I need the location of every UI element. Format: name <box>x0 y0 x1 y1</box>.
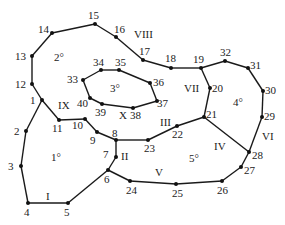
edge-39-40 <box>90 98 102 104</box>
edge-2-3 <box>21 131 26 166</box>
vertex-label-2: 2 <box>14 125 20 137</box>
face-label-4: 4° <box>233 96 243 108</box>
vertex-label-37: 37 <box>157 97 169 109</box>
edge-33-34 <box>83 70 101 80</box>
vertex-label-13: 13 <box>15 50 27 62</box>
roman-label-VII: VII <box>184 82 200 94</box>
vertex-label-23: 23 <box>144 142 156 154</box>
vertex-17 <box>141 58 145 62</box>
roman-label-IV: IV <box>214 140 226 152</box>
vertex-label-33: 33 <box>67 73 79 85</box>
edge-5-6 <box>68 170 108 203</box>
vertex-label-21: 21 <box>206 108 217 120</box>
vertex-label-4: 4 <box>24 206 30 218</box>
edge-9-10 <box>85 119 97 132</box>
vertex-34 <box>99 68 103 72</box>
vertex-label-15: 15 <box>88 9 100 21</box>
vertex-26 <box>220 179 224 183</box>
edge-31-30 <box>248 68 263 91</box>
vertex-label-28: 28 <box>252 149 264 161</box>
edge-region-labels-group: IIIIIIIVVVIVIIVIIIIXX <box>46 28 274 202</box>
vertex-labels-group: 1234567891011121314151617181920212223242… <box>8 9 277 218</box>
vertex-label-35: 35 <box>115 56 127 68</box>
edge-21-22 <box>177 117 204 126</box>
roman-label-VIII: VIII <box>134 28 153 40</box>
edge-32-31 <box>225 61 248 68</box>
vertex-label-20: 20 <box>212 82 224 94</box>
vertex-label-7: 7 <box>103 148 109 160</box>
vertex-label-14: 14 <box>38 23 50 35</box>
edge-38-39 <box>102 104 133 108</box>
vertex-1 <box>40 98 44 102</box>
vertex-6 <box>106 168 110 172</box>
vertex-label-16: 16 <box>114 23 126 35</box>
edge-6-7 <box>108 157 116 170</box>
vertex-label-10: 10 <box>72 119 84 131</box>
vertex-36 <box>148 81 152 85</box>
vertex-label-34: 34 <box>93 56 105 68</box>
edge-25-26 <box>176 181 222 184</box>
vertex-28 <box>247 150 251 154</box>
roman-label-III: III <box>160 116 171 128</box>
vertex-40 <box>88 96 92 100</box>
face-label-3: 3° <box>110 82 120 94</box>
vertex-label-3: 3 <box>8 160 14 172</box>
roman-label-V: V <box>155 166 163 178</box>
vertex-label-31: 31 <box>250 59 261 71</box>
vertex-label-32: 32 <box>220 46 231 58</box>
vertex-label-17: 17 <box>139 45 151 57</box>
vertex-label-8: 8 <box>112 127 118 139</box>
vertex-label-11: 11 <box>52 122 63 134</box>
vertex-19 <box>199 66 203 70</box>
roman-label-X: X <box>119 109 127 121</box>
vertex-label-22: 22 <box>172 128 183 140</box>
roman-label-II: II <box>121 150 129 162</box>
vertex-label-40: 40 <box>77 97 89 109</box>
edge-28-21 <box>204 117 249 152</box>
vertex-27 <box>239 165 243 169</box>
vertex-label-30: 30 <box>265 84 277 96</box>
vertex-7 <box>114 155 118 159</box>
vertex-label-6: 6 <box>104 173 110 185</box>
edge-15-16 <box>95 24 116 37</box>
edge-35-36 <box>119 70 150 83</box>
roman-label-VI: VI <box>262 130 274 142</box>
vertex-label-18: 18 <box>165 52 177 64</box>
vertex-5 <box>66 201 70 205</box>
face-label-1: 1° <box>51 151 61 163</box>
vertex-14 <box>50 31 54 35</box>
edge-26-27 <box>222 167 241 181</box>
vertex-10 <box>83 117 87 121</box>
vertex-35 <box>117 68 121 72</box>
edge-11-1 <box>42 100 59 120</box>
vertex-18 <box>169 66 173 70</box>
vertex-15 <box>93 22 97 26</box>
vertex-label-19: 19 <box>193 53 205 65</box>
vertex-label-5: 5 <box>64 206 70 218</box>
vertex-label-39: 39 <box>95 106 107 118</box>
vertex-label-38: 38 <box>130 109 142 121</box>
edge-14-15 <box>52 24 95 33</box>
vertex-24 <box>128 179 132 183</box>
roman-label-IX: IX <box>58 99 70 111</box>
vertex-25 <box>174 182 178 186</box>
vertex-12 <box>30 82 34 86</box>
vertex-2 <box>24 129 28 133</box>
face-label-2: 2° <box>54 51 64 63</box>
edge-13-14 <box>32 33 52 56</box>
roman-label-I: I <box>46 190 50 202</box>
edge-19-20 <box>201 68 210 88</box>
vertex-label-1: 1 <box>30 94 36 106</box>
vertex-33 <box>81 78 85 82</box>
vertex-4 <box>26 201 30 205</box>
edge-6-24 <box>108 170 130 181</box>
vertex-label-12: 12 <box>15 78 26 90</box>
edge-3-4 <box>21 166 28 203</box>
vertex-label-29: 29 <box>264 110 276 122</box>
edge-40-33 <box>83 80 90 98</box>
edge-19-32 <box>201 61 225 68</box>
edge-37-38 <box>133 101 157 108</box>
vertex-label-26: 26 <box>217 184 229 196</box>
planar-graph-diagram: 1234567891011121314151617181920212223242… <box>0 0 285 225</box>
vertex-3 <box>19 164 23 168</box>
